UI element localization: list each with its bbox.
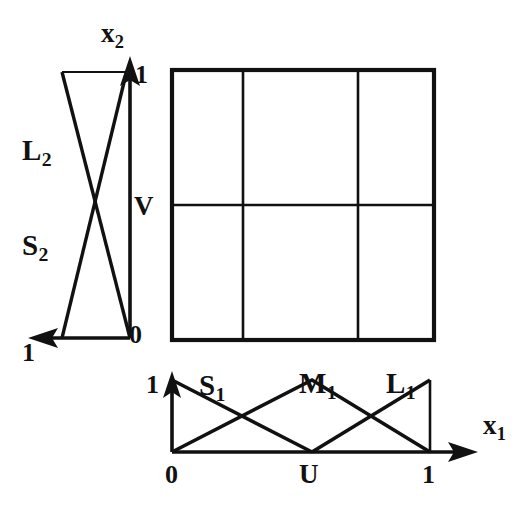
bottom-chart-set-m1: M1 [299, 369, 337, 398]
bottom-chart-tick-origin: 0 [165, 462, 178, 488]
left-chart-tick-left: 1 [22, 340, 35, 366]
rule-grid-group [172, 70, 434, 340]
bottom-chart-tick-top: 1 [146, 372, 159, 398]
left-chart-set-l2: L2 [22, 136, 52, 165]
bottom-chart-tick-mid: U [299, 461, 319, 488]
left-chart-v-axis-name: V [134, 193, 154, 220]
bottom-chart-tick-right: 1 [422, 462, 435, 488]
left-chart-group [28, 56, 140, 348]
bottom-chart-axis-label: x1 [483, 412, 506, 439]
left-chart-tick-top: 1 [135, 62, 148, 88]
left-chart-set-s2: S2 [22, 231, 48, 260]
bottom-chart-set-s1: S1 [199, 371, 225, 400]
figure-canvas: x2 1 0 1 V L2 S2 1 0 U 1 S1 M1 L1 x1 [0, 0, 526, 521]
bottom-chart-set-l1: L1 [386, 369, 416, 398]
left-chart-axis-label: x2 [101, 20, 124, 47]
figure-vector-layer [0, 0, 526, 521]
left-chart-tick-origin: 0 [129, 322, 142, 348]
